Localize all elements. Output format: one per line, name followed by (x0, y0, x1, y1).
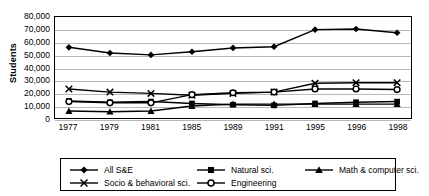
legend-item[interactable]: All S&E (69, 163, 133, 176)
y-axis-tick: 60,000 (0, 38, 50, 47)
legend-item[interactable]: Socio & behavioral sci. (69, 176, 190, 189)
data-point (107, 50, 114, 57)
legend-item[interactable]: Math & computer sci. (304, 163, 419, 176)
diamond-marker (69, 164, 99, 176)
data-point (189, 48, 196, 55)
legend-item[interactable]: Natural sci. (196, 163, 274, 176)
data-point (353, 86, 359, 92)
legend-label: Socio & behavioral sci. (104, 177, 190, 189)
data-point (394, 29, 401, 36)
data-point (312, 86, 318, 92)
y-axis-tick: 50,000 (0, 50, 50, 59)
y-axis-tick: 0 (0, 115, 50, 124)
y-axis-tick-labels: 80,00070,00060,00050,00040,00030,00020,0… (0, 0, 50, 140)
series-diamond (66, 26, 401, 59)
legend-label: Natural sci. (231, 164, 274, 176)
data-point (271, 89, 277, 95)
x-axis-tick: 1989 (224, 122, 243, 132)
data-point (312, 26, 319, 33)
data-point (230, 45, 237, 52)
x-axis-tick: 1996 (347, 122, 366, 132)
x-axis-tick: 1977 (59, 122, 78, 132)
y-axis-tick: 80,000 (0, 12, 50, 21)
x-axis-tick: 1998 (389, 122, 408, 132)
gridline (55, 120, 411, 121)
legend-label: All S&E (104, 164, 133, 176)
x-marker (69, 177, 99, 189)
data-point (230, 90, 236, 96)
x-axis-tick: 1979 (100, 122, 119, 132)
data-point (148, 100, 154, 106)
line-chart: Students 80,00070,00060,00050,00040,0003… (0, 0, 429, 196)
x-axis-tick: 1991 (265, 122, 284, 132)
x-axis-tick-labels: 197719791981198519891991199519961998 (54, 122, 412, 136)
x-axis-tick: 1985 (182, 122, 201, 132)
open-circle-marker (196, 177, 226, 189)
legend-item[interactable]: Engineering (196, 176, 276, 189)
square-marker (196, 164, 226, 176)
x-axis-tick: 1995 (306, 122, 325, 132)
y-axis-tick: 30,000 (0, 76, 50, 85)
data-point (394, 87, 400, 93)
data-point (189, 92, 195, 98)
y-axis-tick: 10,000 (0, 102, 50, 111)
legend-label: Math & computer sci. (339, 164, 419, 176)
data-point (66, 99, 72, 105)
plot-area (54, 16, 412, 119)
x-axis-tick: 1981 (141, 122, 160, 132)
legend-label: Engineering (231, 177, 276, 189)
data-point (353, 26, 360, 33)
y-axis-tick: 70,000 (0, 25, 50, 34)
chart-legend: All S&ENatural sci.Math & computer sci.S… (60, 158, 396, 191)
data-point (148, 52, 155, 59)
data-point (107, 100, 113, 106)
triangle-marker (304, 164, 334, 176)
data-point (66, 44, 73, 51)
data-point (271, 43, 278, 50)
y-axis-tick: 20,000 (0, 89, 50, 98)
series-layer (55, 17, 411, 118)
y-axis-tick: 40,000 (0, 63, 50, 72)
